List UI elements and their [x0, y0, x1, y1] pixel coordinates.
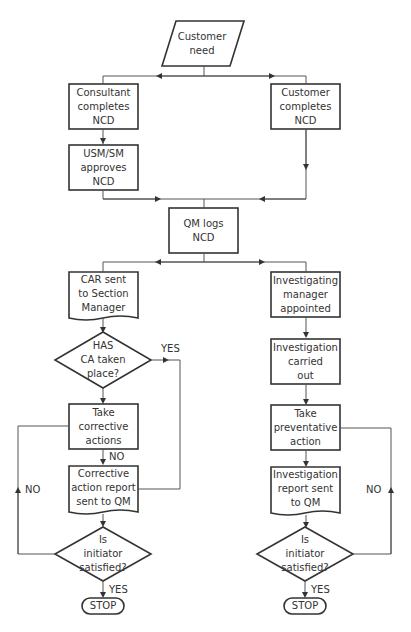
node-label-line: manager: [283, 288, 328, 302]
node-label-line: HAS: [93, 339, 114, 353]
node-label-line: report sent: [278, 482, 333, 496]
node-label-line: satisfied?: [281, 561, 328, 575]
node-label-line: initiator: [84, 547, 123, 561]
node-label-line: preventative: [274, 421, 338, 435]
node-label-line: Is: [301, 533, 309, 547]
node-label-line: Manager: [82, 301, 126, 315]
node-label-line: Take: [294, 407, 316, 421]
node-label-line: Take: [92, 406, 114, 420]
customer-completes-node: Customer completes NCD: [271, 84, 340, 129]
initiator-right-node: Is initiator satisfied?: [265, 527, 345, 581]
node-label-line: CA taken: [81, 353, 126, 367]
node-label-line: Customer: [178, 30, 227, 44]
has-ca-yes-label: YES: [161, 343, 180, 355]
car-sent-node: CAR sent to Section Manager: [69, 272, 138, 316]
usm-approves-node: USM/SM approves NCD: [69, 145, 138, 190]
consultant-completes-node: Consultant completes NCD: [69, 84, 138, 129]
customer-need-node: Customer need: [166, 21, 238, 66]
node-label-line: NCD: [92, 114, 114, 128]
node-label-line: to Section: [78, 287, 128, 301]
node-label-line: completes: [78, 100, 130, 114]
investigating-manager-node: Investigating manager appointed: [271, 272, 340, 317]
corrective-report-node: Corrective action report sent to QM: [66, 466, 141, 510]
node-label-line: Investigating: [273, 274, 338, 288]
node-label-line: Corrective: [78, 467, 129, 481]
node-label-line: QM logs: [183, 217, 223, 231]
node-label-line: completes: [280, 100, 332, 114]
node-label-line: appointed: [280, 302, 330, 316]
node-label-line: NCD: [192, 231, 214, 245]
node-label-line: place?: [87, 367, 119, 381]
node-label-line: sent to QM: [76, 495, 131, 509]
take-corrective-no-label: NO: [109, 451, 124, 463]
node-label-line: to QM: [291, 496, 321, 510]
node-label-line: USM/SM: [83, 147, 124, 161]
right-yes-label: YES: [311, 584, 330, 596]
node-label-line: initiator: [286, 547, 325, 561]
qm-logs-node: QM logs NCD: [169, 208, 238, 253]
node-label-line: corrective: [79, 420, 129, 434]
node-label-line: Consultant: [76, 86, 130, 100]
right-loop-no-label: NO: [366, 484, 381, 496]
node-label-line: out: [297, 369, 313, 383]
node-label-line: STOP: [292, 599, 318, 613]
node-label-line: carried: [288, 355, 323, 369]
node-label-line: action: [290, 435, 321, 449]
node-label-line: actions: [86, 434, 122, 448]
node-label-line: need: [190, 44, 215, 58]
node-label-line: approves: [80, 161, 126, 175]
node-label-line: Investigation: [273, 341, 338, 355]
take-preventative-node: Take preventative action: [271, 405, 340, 450]
node-label-line: NCD: [294, 114, 316, 128]
take-corrective-node: Take corrective actions: [69, 404, 138, 449]
node-label-line: NCD: [92, 175, 114, 189]
node-label-line: Customer: [281, 86, 330, 100]
stop-right-node: STOP: [284, 598, 326, 614]
left-yes-label: YES: [109, 584, 128, 596]
node-label-line: action report: [71, 481, 136, 495]
initiator-left-node: Is initiator satisfied?: [63, 527, 143, 581]
investigation-carried-node: Investigation carried out: [271, 339, 340, 384]
left-loop-no-label: NO: [25, 484, 40, 496]
node-label-line: CAR sent: [81, 273, 127, 287]
node-label-line: STOP: [90, 599, 116, 613]
stop-left-node: STOP: [82, 598, 124, 614]
investigation-report-node: Investigation report sent to QM: [271, 467, 340, 511]
has-ca-node: HAS CA taken place?: [63, 332, 143, 388]
node-label-line: satisfied?: [79, 561, 126, 575]
flowchart-canvas: [0, 0, 411, 632]
node-label-line: Is: [99, 533, 107, 547]
node-label-line: Investigation: [273, 468, 338, 482]
